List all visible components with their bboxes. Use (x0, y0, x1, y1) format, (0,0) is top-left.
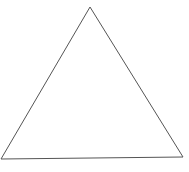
diagram-canvas (0, 0, 189, 172)
triangle-shape (1, 7, 183, 159)
